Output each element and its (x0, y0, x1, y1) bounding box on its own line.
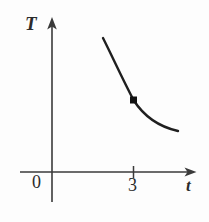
curve-series-T (103, 38, 178, 131)
x-axis-label: t (186, 177, 191, 194)
x-tick-label-3: 3 (128, 176, 137, 194)
y-axis-label: T (25, 14, 37, 33)
temperature-time-graph-figure: T t 0 3 (0, 0, 209, 222)
origin-label: 0 (32, 173, 41, 191)
data-point-marker-at-3 (130, 97, 137, 104)
